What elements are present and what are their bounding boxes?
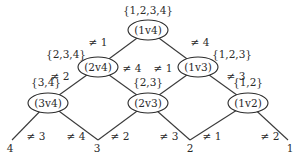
edge-label-1v2-leaf1: ≠ 2: [261, 130, 280, 142]
leaf-4: 4: [7, 142, 14, 154]
edge-label-3v4-leaf4: ≠ 3: [27, 130, 46, 142]
node-set-label: {1,2,3}: [212, 48, 252, 61]
edge-label-1v3-1v2: ≠ 3: [227, 70, 246, 82]
node-set-label: {1,2,3,4}: [123, 4, 173, 17]
leaf-2: 2: [187, 142, 194, 154]
node-label: (1v3): [184, 61, 212, 73]
edge-label-1v4-1v3: ≠ 4: [191, 36, 210, 48]
edge-label-2v3-leaf3: ≠ 2: [111, 130, 130, 142]
node-label: (1v4): [134, 24, 162, 36]
leaves: 4 3 2 1: [7, 142, 294, 154]
edge-label-2v4-3v4: ≠ 2: [51, 70, 70, 82]
leaf-1: 1: [287, 142, 294, 154]
leaf-3: 3: [94, 142, 101, 154]
node-label: (2v3): [134, 97, 162, 109]
edge-label-1v2-leaf2: ≠ 1: [203, 130, 222, 142]
node-label: (3v4): [34, 97, 62, 109]
edge-label-2v3-leaf2: ≠ 3: [160, 130, 179, 142]
node-label: (2v4): [84, 61, 112, 73]
edge-label-3v4-leaf3: ≠ 4: [67, 130, 86, 142]
node-set-label: {2,3}: [133, 76, 163, 89]
edge-label-2v4-2v3: ≠ 4: [123, 62, 142, 74]
node-1v4: (1v4) {1,2,3,4}: [123, 4, 173, 40]
edge-label-1v4-2v4: ≠ 1: [89, 36, 108, 48]
node-label: (1v2): [234, 97, 262, 109]
lattice-diagram: (1v4) {1,2,3,4} (2v4) {2,3,4} (1v3) {1,2…: [0, 0, 298, 160]
node-set-label: {2,3,4}: [46, 48, 86, 61]
node-2v3: (2v3) {2,3}: [128, 76, 168, 113]
edge-label-1v3-2v3: ≠ 1: [154, 62, 173, 74]
